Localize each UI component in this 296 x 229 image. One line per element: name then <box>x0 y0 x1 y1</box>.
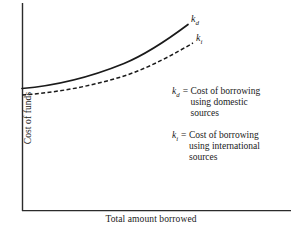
x-axis-title: Total amount borrowed <box>22 214 280 224</box>
legend-ki-equals: = <box>178 130 189 141</box>
legend-item-kd: kd = Cost of borrowing using domestic so… <box>172 86 292 119</box>
legend-item-ki: ki = Cost of borrowing using internation… <box>172 130 292 163</box>
legend-ki-description: Cost of borrowing using international so… <box>189 130 260 163</box>
kd-curve-label-sub: d <box>195 19 199 27</box>
legend: kd = Cost of borrowing using domestic so… <box>172 86 292 174</box>
legend-kd-symbol: kd <box>172 86 180 100</box>
legend-kd-equals: = <box>180 86 191 97</box>
cost-of-funds-chart: kd ki Cost of funds Total amount borrowe… <box>0 0 296 229</box>
legend-kd-description: Cost of borrowing using domestic sources <box>190 86 260 119</box>
y-axis-title: Cost of funds <box>23 68 33 168</box>
kd-curve <box>22 25 188 89</box>
ki-curve-label: ki <box>196 32 202 46</box>
kd-curve-label: kd <box>191 13 199 27</box>
ki-curve-label-sub: i <box>200 38 202 46</box>
